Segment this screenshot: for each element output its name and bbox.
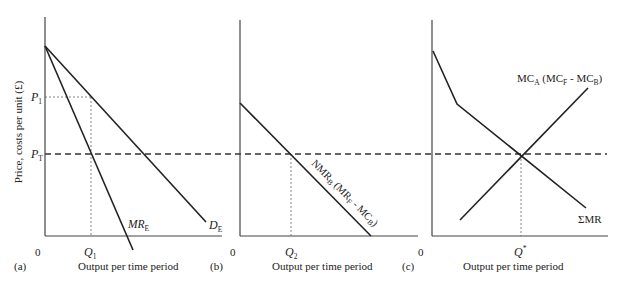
panel-c: MCA (MCF - MCB) ΣMR 0 Q* (c) Output per … [402,20,608,273]
panel-a-origin: 0 [35,246,41,258]
qstar-label: Q* [514,244,527,259]
panel-b: NMRB (MRF - MCB) 0 Q2 (b) Output per tim… [210,20,418,273]
de-label: DE [208,218,223,234]
q1-label: Q1 [84,245,97,261]
pt-label: PT [30,147,43,163]
q2-label: Q2 [285,245,298,261]
demand-curve-de [45,46,206,222]
p1-label: P1 [30,90,42,106]
mre-label: MRE [127,218,150,233]
mca-label: MCA (MCF - MCB) [517,72,603,87]
panel-b-marker: (b) [210,260,223,273]
panel-c-marker: (c) [402,260,415,273]
chart-figure: Price, costs per unit (£) P1 PT MRE DE 0… [0,0,639,292]
marginal-revenue-curve-mre [45,46,133,250]
panel-a-marker: (a) [14,260,27,273]
sigma-mr-label: ΣMR [578,213,602,225]
y-axis-label: Price, costs per unit (£) [12,80,25,183]
panel-c-origin: 0 [418,246,424,258]
panel-a: Price, costs per unit (£) P1 PT MRE DE 0… [12,17,223,273]
panel-c-x-label: Output per time period [463,260,564,272]
panel-b-x-label: Output per time period [272,260,373,272]
nmrb-curve [240,103,371,236]
nmrb-label: NMRB (MRF - MCB) [308,158,381,231]
panel-b-origin: 0 [230,246,236,258]
panel-a-x-label: Output per time period [78,260,179,272]
